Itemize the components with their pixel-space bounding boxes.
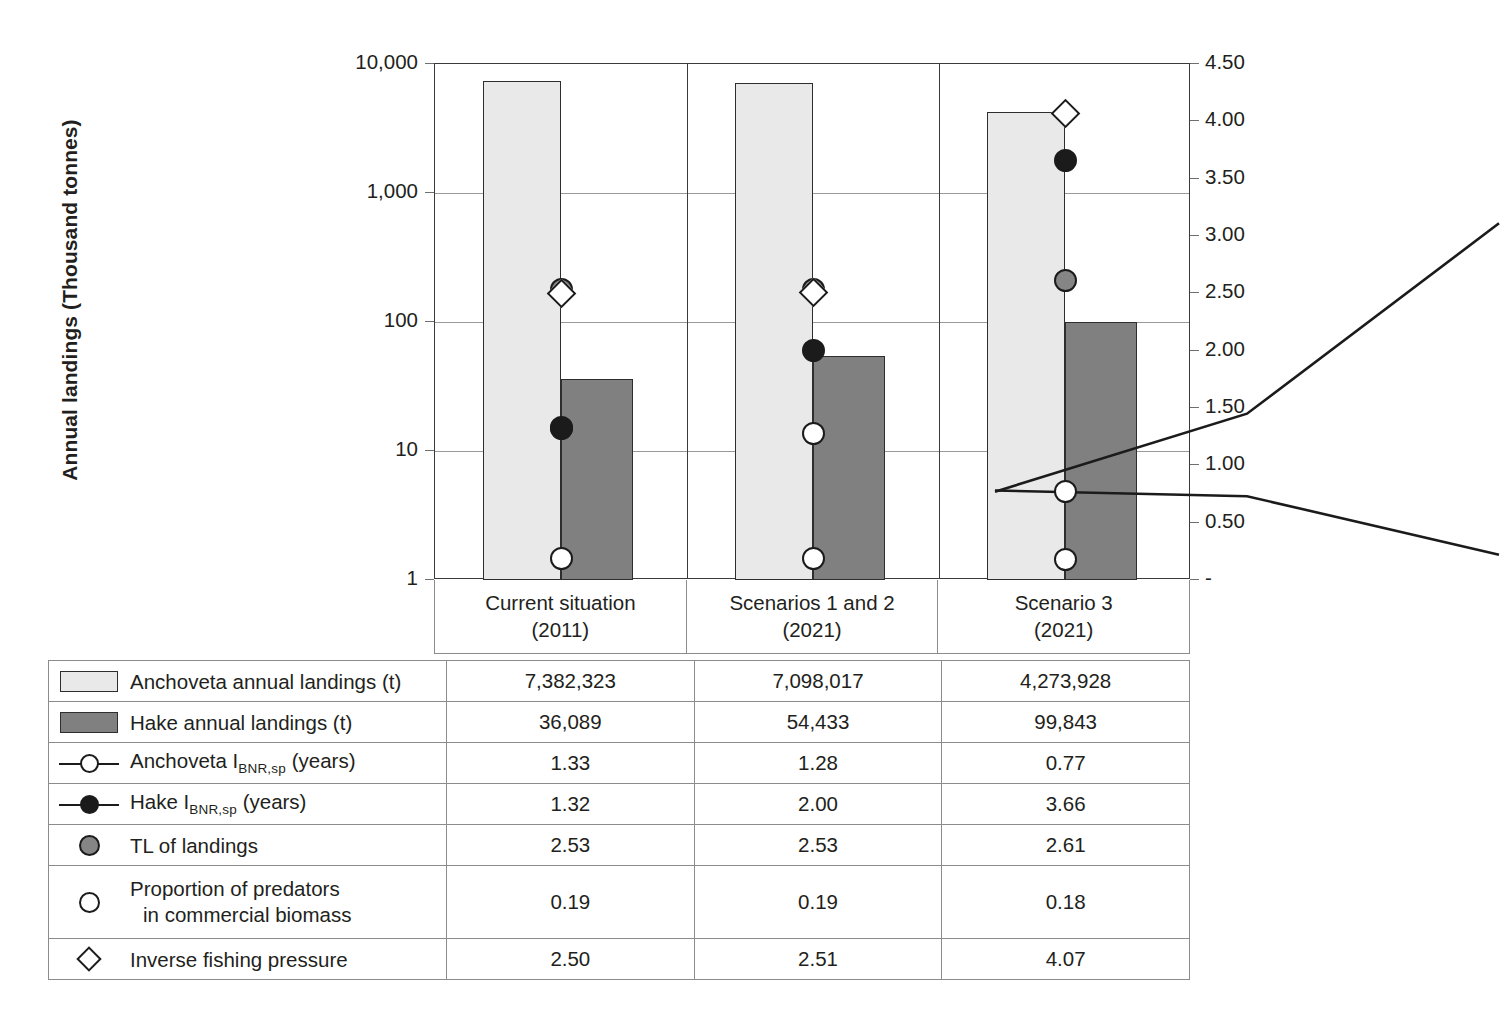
bar-hake (1065, 322, 1137, 580)
plot-area (434, 63, 1190, 579)
y-right-tick-label: 1.50 (1205, 396, 1325, 417)
value-cell: 1.33 (447, 743, 695, 784)
legend-swatch (57, 671, 121, 692)
table-row: Hake annual landings (t)36,08954,43399,8… (49, 702, 1190, 743)
marker-anchoveta-ibnr (1054, 480, 1077, 503)
bar-anchoveta (483, 81, 561, 580)
x-category-1: Current situation(2011) (435, 580, 687, 653)
x-axis-category-labels: Current situation(2011)Scenarios 1 and 2… (434, 580, 1190, 654)
y-right-tick (1190, 579, 1199, 580)
line-open-circle-icon (59, 753, 119, 774)
gray-circle-icon (79, 835, 100, 856)
y-left-tick (425, 579, 434, 580)
line-series-layer (869, 127, 1504, 643)
value-cell: 1.28 (694, 743, 942, 784)
value-cell: 2.53 (694, 825, 942, 866)
legend-label-cell: Hake annual landings (t) (49, 702, 447, 743)
legend-label-wrap: TL of landings (57, 833, 446, 858)
y-right-tick (1190, 292, 1199, 293)
legend-swatch (57, 892, 121, 913)
y-left-tick (425, 192, 434, 193)
bar-hake (561, 379, 633, 580)
x-category-line2: (2021) (1034, 617, 1093, 643)
hake-bar-swatch-icon (60, 712, 118, 733)
value-cell: 0.19 (447, 866, 695, 939)
marker-hake-ibnr (802, 339, 825, 362)
legend-label-wrap: Inverse fishing pressure (57, 947, 446, 972)
y-right-tick-label: 2.50 (1205, 281, 1325, 302)
y-axis-title: Annual landings (Thousand tonnes) (58, 40, 82, 560)
legend-swatch (57, 950, 121, 968)
legend-label-cell: Hake IBNR,sp (years) (49, 784, 447, 825)
legend-label-wrap: Hake annual landings (t) (57, 710, 446, 735)
legend-label-text: Proportion of predatorsin commercial bio… (130, 876, 351, 927)
y-right-tick (1190, 464, 1199, 465)
y-right-tick-label: 1.00 (1205, 453, 1325, 474)
marker-proportion-of-predators (1054, 548, 1077, 571)
marker-hake-ibnr (1054, 149, 1077, 172)
bar-anchoveta (735, 83, 813, 580)
marker-proportion-of-predators (550, 547, 573, 570)
x-category-line1: Current situation (485, 590, 635, 616)
y-right-tick-label: 3.00 (1205, 224, 1325, 245)
y-left-tick-label: 1 (300, 568, 418, 589)
legend-label-cell: Proportion of predatorsin commercial bio… (49, 866, 447, 939)
y-right-tick (1190, 350, 1199, 351)
legend-label-text: Inverse fishing pressure (130, 947, 348, 972)
x-category-line2: (2011) (531, 617, 589, 643)
value-cell: 36,089 (447, 702, 695, 743)
anchoveta-bar-swatch-icon (60, 671, 118, 692)
legend-data-table: Anchoveta annual landings (t)7,382,3237,… (48, 660, 1190, 980)
y-right-tick-label: 2.00 (1205, 339, 1325, 360)
table-row: Hake IBNR,sp (years)1.322.003.66 (49, 784, 1190, 825)
y-right-tick (1190, 120, 1199, 121)
y-right-tick (1190, 235, 1199, 236)
y-right-tick (1190, 178, 1199, 179)
legend-label-text: Anchoveta IBNR,sp (years) (130, 748, 355, 778)
legend-label-cell: Anchoveta IBNR,sp (years) (49, 743, 447, 784)
value-cell: 2.61 (942, 825, 1190, 866)
table-row: Proportion of predatorsin commercial bio… (49, 866, 1190, 939)
legend-label-text: TL of landings (130, 833, 258, 858)
y-right-tick-label: 0.50 (1205, 511, 1325, 532)
bar-hake (813, 356, 885, 580)
value-cell: 0.19 (694, 866, 942, 939)
y-right-tick (1190, 63, 1199, 64)
value-cell: 1.32 (447, 784, 695, 825)
legend-label-text: Hake IBNR,sp (years) (130, 789, 306, 819)
marker-proportion-of-predators (802, 547, 825, 570)
open-circle-icon (80, 754, 99, 773)
x-category-2: Scenarios 1 and 2(2021) (687, 580, 939, 653)
legend-swatch (57, 835, 121, 856)
y-left-tick-label: 10,000 (300, 52, 418, 73)
filled-circle-icon (80, 795, 99, 814)
legend-label-text: Hake annual landings (t) (130, 710, 352, 735)
table-row: Anchoveta IBNR,sp (years)1.331.280.77 (49, 743, 1190, 784)
y-right-tick (1190, 407, 1199, 408)
legend-label-wrap: Anchoveta IBNR,sp (years) (57, 748, 446, 778)
open-diamond-icon (76, 946, 101, 971)
value-cell: 54,433 (694, 702, 942, 743)
legend-swatch (57, 753, 121, 774)
y-left-tick-label: 100 (300, 310, 418, 331)
y-left-tick (425, 450, 434, 451)
legend-label-cell: Inverse fishing pressure (49, 939, 447, 980)
legend-label-subscript: BNR,sp (238, 761, 286, 776)
legend-label-wrap: Proportion of predatorsin commercial bio… (57, 876, 446, 927)
legend-label-line2: in commercial biomass (130, 902, 351, 928)
open-circle-icon (79, 892, 100, 913)
marker-tl-of-landings (1054, 269, 1077, 292)
value-cell: 4.07 (942, 939, 1190, 980)
x-category-line2: (2021) (782, 617, 841, 643)
table-row: TL of landings2.532.532.61 (49, 825, 1190, 866)
y-right-tick-label: 4.50 (1205, 52, 1325, 73)
category-divider (939, 64, 940, 578)
y-left-tick (425, 63, 434, 64)
table-row: Inverse fishing pressure2.502.514.07 (49, 939, 1190, 980)
x-category-line1: Scenarios 1 and 2 (729, 590, 894, 616)
marker-anchoveta-ibnr (802, 422, 825, 445)
value-cell: 7,382,323 (447, 661, 695, 702)
legend-label-wrap: Anchoveta annual landings (t) (57, 669, 446, 694)
y-right-tick-label: 3.50 (1205, 167, 1325, 188)
